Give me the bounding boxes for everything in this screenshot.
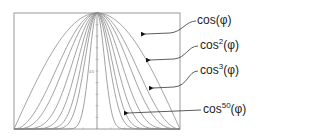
label-base: cos: [200, 63, 219, 77]
label-base: cos: [197, 13, 216, 27]
label-cos50: cos50(φ): [203, 101, 246, 116]
pointer-arrow-2: [150, 46, 198, 60]
center-tick-label: 0.5: [89, 70, 94, 74]
label-exp: 50: [222, 101, 231, 110]
label-arg: (φ): [231, 102, 247, 116]
label-cos2: cos2(φ): [200, 37, 239, 52]
label-base: cos: [203, 102, 222, 116]
pointer-arrow-4: [128, 110, 201, 113]
label-cos1: cos(φ): [197, 12, 231, 27]
label-arg: (φ): [223, 38, 239, 52]
label-cos3: cos3(φ): [200, 62, 239, 77]
pointer-arrow-1: [145, 21, 196, 34]
label-arg: (φ): [216, 13, 232, 27]
label-base: cos: [200, 38, 219, 52]
label-arg: (φ): [223, 63, 239, 77]
